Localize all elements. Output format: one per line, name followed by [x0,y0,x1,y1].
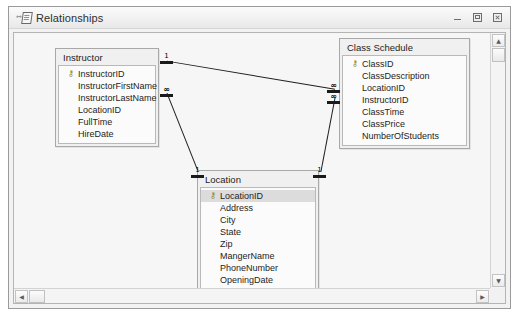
field-zip[interactable]: Zip [201,238,315,250]
field-address[interactable]: Address [201,202,315,214]
field-label: InstructorID [362,95,409,105]
marker-bar [160,61,173,64]
primary-key-icon: ⚷ [210,192,218,200]
field-instructorid[interactable]: ⚷ InstructorID [59,68,155,80]
marker-label: ∞ [160,86,173,93]
field-label: InstructorID [78,69,125,79]
horizontal-scrollbar[interactable]: ◀ ▶ [14,288,490,303]
vertical-scrollbar-thumb[interactable] [492,48,505,62]
link-instructor-location [167,93,198,172]
marker-label: ∞ [327,82,340,89]
field-instructorid[interactable]: InstructorID [343,94,466,106]
primary-key-icon: ⚷ [68,70,76,78]
scroll-left-button[interactable]: ◀ [15,290,28,303]
field-locationid[interactable]: LocationID [343,82,466,94]
field-phonenumber[interactable]: PhoneNumber [201,262,315,274]
instructor-one-marker: 1 [160,53,173,64]
table-class-schedule[interactable]: Class Schedule ⚷ ClassID ClassDescriptio… [339,38,470,149]
marker-bar [327,101,340,104]
title-bar: ⇿ Relationships [9,7,510,29]
close-button[interactable] [488,9,506,25]
vertical-scrollbar[interactable]: ▲ ▼ [490,33,505,288]
field-label: PhoneNumber [220,263,278,273]
scrollbar-corner [490,288,505,303]
location-one-marker-right: 1 [313,167,326,178]
location-one-marker-left: 1 [191,167,204,178]
field-locationid[interactable]: ⚷ LocationID [201,190,315,202]
field-label: InstructorLastName [78,93,157,103]
marker-label: 1 [160,53,173,60]
primary-key-icon: ⚷ [352,60,360,68]
marker-label: ∞ [327,93,340,100]
field-instructorlastname[interactable]: InstructorLastName [59,92,155,104]
field-city[interactable]: City [201,214,315,226]
marker-label: 1 [191,167,204,174]
field-label: MangerName [220,251,275,261]
field-numberofstudents[interactable]: NumberOfStudents [343,130,466,142]
field-label: LocationID [78,105,121,115]
field-label: NumberOfStudents [362,131,439,141]
table-class-schedule-fields: ⚷ ClassID ClassDescription LocationID In… [342,55,467,146]
field-classdescription[interactable]: ClassDescription [343,70,466,82]
marker-bar [160,94,173,97]
field-label: ClassDescription [362,71,430,81]
field-openingdate[interactable]: OpeningDate [201,274,315,286]
horizontal-scrollbar-thumb[interactable] [29,290,45,303]
table-location[interactable]: Location ⚷ LocationID Address City State [197,170,319,288]
field-locationid[interactable]: LocationID [59,104,155,116]
link-instructor-classschedule [167,61,335,89]
field-label: ClassTime [362,107,404,117]
table-instructor[interactable]: Instructor ⚷ InstructorID InstructorFirs… [55,48,159,147]
table-instructor-fields: ⚷ InstructorID InstructorFirstName Instr… [58,65,156,144]
relationships-canvas[interactable]: Instructor ⚷ InstructorID InstructorFirs… [14,33,490,288]
table-instructor-title: Instructor [58,51,156,65]
table-class-schedule-title: Class Schedule [342,41,467,55]
marker-bar [191,175,204,178]
field-label: OpeningDate [220,275,273,285]
field-label: City [220,215,236,225]
field-label: ClassID [362,59,394,69]
marker-bar [313,175,326,178]
field-classprice[interactable]: ClassPrice [343,118,466,130]
table-location-title: Location [200,173,316,187]
minimize-button[interactable] [448,9,466,25]
scroll-up-button[interactable]: ▲ [492,34,505,47]
field-classid[interactable]: ⚷ ClassID [343,58,466,70]
field-instructorfirstname[interactable]: InstructorFirstName [59,80,155,92]
field-classtime[interactable]: ClassTime [343,106,466,118]
link-location-classschedule [321,98,335,172]
field-label: Zip [220,239,233,249]
field-label: Address [220,203,253,213]
field-fulltime[interactable]: FullTime [59,116,155,128]
field-label: FullTime [78,117,112,127]
field-label: ClassPrice [362,119,405,129]
field-label: LocationID [220,191,263,201]
field-label: LocationID [362,83,405,93]
scroll-right-button[interactable]: ▶ [476,290,489,303]
instructor-many-marker: ∞ [160,86,173,97]
table-location-fields: ⚷ LocationID Address City State Zip [200,187,316,288]
field-mangername[interactable]: MangerName [201,250,315,262]
window-buttons [448,9,506,25]
field-state[interactable]: State [201,226,315,238]
field-label: HireDate [78,129,114,139]
restore-button[interactable] [468,9,486,25]
relationships-icon: ⇿ [16,11,31,24]
relationships-canvas-frame: Instructor ⚷ InstructorID InstructorFirs… [13,32,506,304]
field-label: State [220,227,241,237]
classschedule-many-marker-2: ∞ [327,93,340,104]
marker-label: 1 [313,167,326,174]
relationships-window: ⇿ Relationships Instructor [8,6,511,309]
field-label: InstructorFirstName [78,81,157,91]
window-title: Relationships [36,12,103,24]
scroll-down-button[interactable]: ▼ [492,274,505,287]
field-hiredate[interactable]: HireDate [59,128,155,140]
